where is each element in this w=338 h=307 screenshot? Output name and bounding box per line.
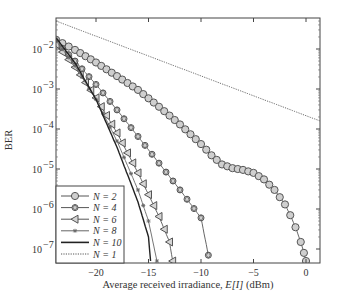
y-tick-exponent: −4 <box>43 119 54 130</box>
y-tick-exponent: −2 <box>43 39 54 50</box>
y-tick-exponent: −5 <box>43 159 54 170</box>
y-tick-label: 10 <box>32 244 42 255</box>
x-tick-label: 0 <box>304 267 309 278</box>
legend: N = 2N = 4N = 6N = 8N = 10N = 1 <box>56 186 124 263</box>
legend-label: N = 6 <box>92 214 116 225</box>
legend-label: N = 2 <box>92 191 116 202</box>
legend-label: N = 8 <box>92 225 116 236</box>
legend-label: N = 1 <box>92 249 116 260</box>
y-tick-exponent: −7 <box>43 239 54 250</box>
x-tick-label: −10 <box>193 267 209 278</box>
x-tick-label: −15 <box>141 267 157 278</box>
y-tick-label: 10 <box>32 84 42 95</box>
y-tick-exponent: −6 <box>43 199 54 210</box>
y-tick-label: 10 <box>32 124 42 135</box>
y-tick-label: 10 <box>32 204 42 215</box>
y-tick-exponent: −3 <box>43 79 54 90</box>
y-tick-label: 10 <box>32 44 42 55</box>
x-tick-label: −5 <box>248 267 259 278</box>
legend-label: N = 4 <box>92 202 116 213</box>
legend-label: N = 10 <box>92 237 121 248</box>
x-tick-label: −20 <box>88 267 104 278</box>
series-n=1 <box>56 21 320 121</box>
y-tick-label: 10 <box>32 164 42 175</box>
x-axis-label: Average received irradiance, E[I] (dBm) <box>103 279 274 291</box>
ber-chart: −20−15−10−5010−210−310−410−510−610−7 N =… <box>0 0 338 307</box>
y-axis-label: BER <box>3 130 14 150</box>
